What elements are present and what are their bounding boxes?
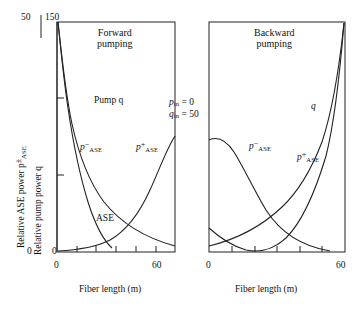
right-panel-plot: [209, 22, 345, 252]
left-panel-plot: [41, 15, 175, 252]
right-panel-frame: [209, 22, 345, 252]
left-curve-p-minus-ase: [58, 22, 112, 248]
left-curve-pump-q: [58, 22, 175, 246]
right-curve-pump-q: [209, 23, 344, 246]
plot-svg: [0, 0, 361, 310]
figure-container: Relative pump power q Relative ASE power…: [0, 0, 361, 310]
